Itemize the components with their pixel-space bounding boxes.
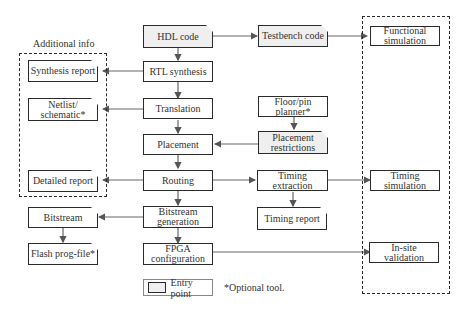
synthesis-report-node[interactable]: Synthesis report: [28, 60, 98, 82]
netlist-schematic-node[interactable]: Netlist/ schematic*: [28, 98, 98, 121]
fpga-configuration-node[interactable]: FPGA configuration: [143, 243, 213, 265]
floor-pin-planner-node[interactable]: Floor/pin planner*: [258, 96, 328, 117]
bitstream-generation-node[interactable]: Bitstream generation: [143, 206, 213, 228]
placement-restrictions-node[interactable]: Placement restrictions: [258, 131, 328, 154]
routing-node[interactable]: Routing: [143, 170, 213, 191]
legend: Entry point: [143, 279, 213, 296]
functional-simulation-node[interactable]: Functional simulation: [370, 26, 440, 46]
translation-node[interactable]: Translation: [143, 98, 213, 119]
rtl-synthesis-node[interactable]: RTL synthesis: [143, 61, 213, 82]
timing-extraction-node[interactable]: Timing extraction: [257, 170, 328, 191]
entry-point-label: Entry point: [171, 277, 212, 299]
timing-report-node[interactable]: Timing report: [257, 207, 327, 230]
placement-node[interactable]: Placement: [143, 134, 213, 155]
optional-tool-note: *Optional tool.: [224, 282, 285, 293]
bitstream-node[interactable]: Bitstream: [28, 207, 98, 228]
additional-info-label: Additional info: [33, 38, 94, 49]
in-site-validation-node[interactable]: In-site validation: [369, 242, 439, 263]
testbench-code-node[interactable]: Testbench code: [258, 25, 328, 47]
timing-simulation-node[interactable]: Timing simulation: [370, 170, 440, 191]
hdl-code-node[interactable]: HDL code: [143, 25, 213, 48]
entry-point-swatch: [148, 282, 166, 293]
flash-prog-file-node[interactable]: Flash prog-file*: [28, 243, 98, 265]
detailed-report-node[interactable]: Detailed report: [28, 170, 98, 192]
